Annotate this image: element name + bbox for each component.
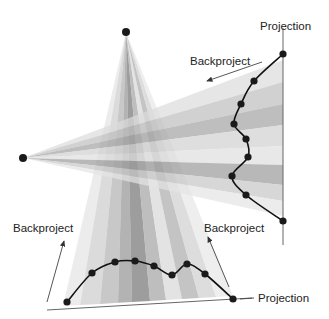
right-projection-point: [242, 135, 249, 142]
left-source-point: [19, 154, 27, 162]
right-projection-point: [244, 153, 251, 160]
bottom-projection-point: [201, 270, 208, 277]
label-backproject-bottom-right: Backproject: [204, 222, 265, 234]
bottom-projection-point: [229, 295, 236, 302]
label-backproject-right: Backproject: [190, 55, 251, 67]
bottom-projection-point: [63, 298, 70, 305]
bottom-projection-point: [111, 258, 118, 265]
bottom-projection-point: [131, 257, 138, 264]
right-projection-point: [279, 50, 286, 57]
right-projection-point: [279, 217, 286, 224]
right-projection-point: [250, 77, 257, 84]
right-projection-point: [228, 172, 235, 179]
backprojection-diagram: Projection Backproject Backproject Backp…: [0, 0, 329, 319]
right-projection-point: [237, 100, 244, 107]
label-projection-right: Projection: [260, 20, 311, 32]
backproject-arrow-left: [47, 241, 64, 302]
bottom-projection-point: [88, 269, 95, 276]
bottom-projection-point: [168, 271, 175, 278]
right-projection-point: [230, 120, 237, 127]
right-projection-point: [242, 191, 249, 198]
bottom-projection-point: [150, 262, 157, 269]
top-source-point: [122, 28, 130, 36]
bottom-projection-point: [183, 260, 190, 267]
label-backproject-left: Backproject: [13, 222, 74, 234]
label-projection-bottom: Projection: [258, 292, 309, 304]
